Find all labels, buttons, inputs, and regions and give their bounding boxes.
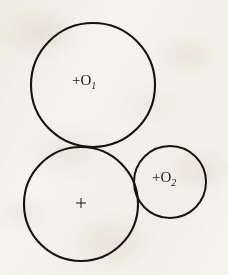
label-o1: +O1 (72, 72, 96, 91)
label-o2: +O2 (152, 169, 176, 188)
label-o1-group: +O1 (72, 72, 96, 91)
label-o1-subscript: 1 (91, 80, 96, 91)
center-mark-unlabeled-circle (76, 198, 86, 208)
label-o2-plus: +O (152, 169, 171, 185)
figure-canvas: +O1 +O2 (0, 0, 228, 275)
label-o1-plus: +O (72, 72, 91, 88)
label-o2-group: +O2 (152, 169, 176, 188)
label-o2-subscript: 2 (171, 177, 176, 188)
three-circles-diagram: +O1 +O2 (0, 0, 228, 275)
